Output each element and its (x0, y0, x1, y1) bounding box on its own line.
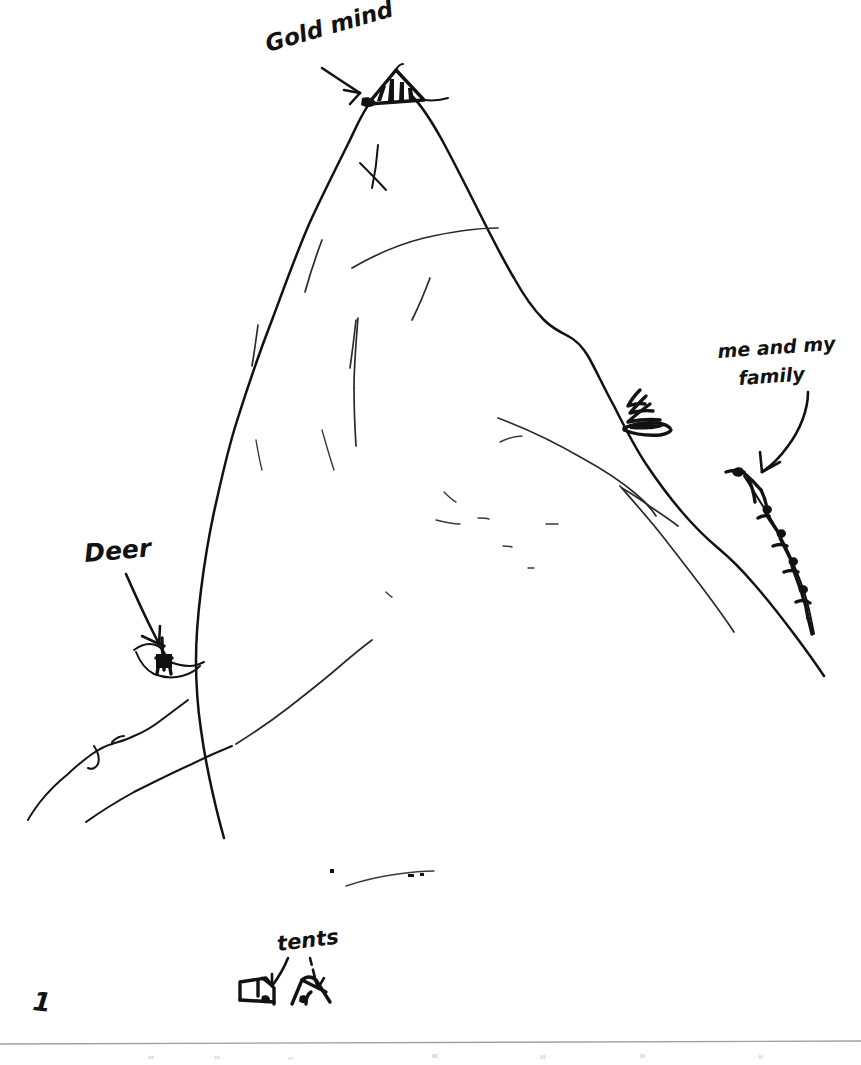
gold-mine-arrow (322, 68, 360, 104)
family-arrow (760, 392, 808, 472)
gold-mine-structure (361, 64, 448, 107)
page-number: 1 (31, 986, 52, 1018)
mountain-sketch-canvas: Gold mind me and my family Deer tents 1 (0, 0, 861, 1065)
mountain-interior-lines (252, 228, 558, 597)
label-deer: Deer (83, 533, 154, 568)
climber-chain (726, 467, 814, 634)
labels-layer: Gold mind me and my family Deer tents 1 (31, 0, 837, 1018)
tent-left (240, 978, 274, 1004)
label-family-line2: family (738, 362, 807, 389)
tent-right (292, 977, 330, 1004)
label-tents: tents (276, 925, 340, 956)
sketch-page: Gold mind me and my family Deer tents 1 (0, 0, 861, 1065)
label-gold-mine: Gold mind (262, 0, 396, 57)
conifer-tree-icon (624, 390, 671, 435)
page-border (0, 1041, 861, 1060)
mountain-outline (196, 96, 824, 838)
label-family-line1: me and my (717, 332, 838, 362)
middle-ridge-lines (498, 418, 734, 632)
foreground-ground-stroke (330, 869, 434, 886)
summit-cross-mark (360, 145, 386, 190)
deer-arrow (126, 574, 160, 644)
